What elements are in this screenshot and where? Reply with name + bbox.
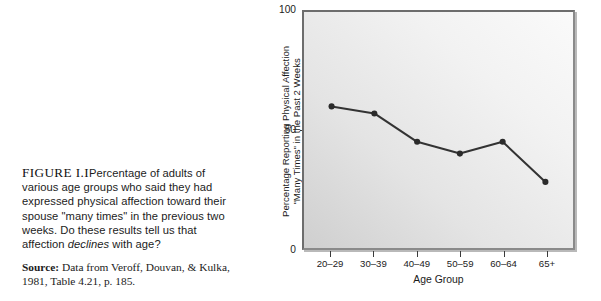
x-tick-mark — [330, 251, 331, 257]
x-tick-mark — [373, 251, 374, 257]
data-series-line — [332, 106, 546, 182]
x-tick-mark — [547, 251, 548, 257]
x-axis-title: Age Group — [302, 274, 575, 285]
data-point — [414, 139, 420, 145]
data-point — [500, 139, 506, 145]
line-chart: Percentage Reporting Physical Affection … — [236, 0, 601, 301]
y-tick-label-100: 100 — [270, 4, 296, 15]
x-tick-label: 40–49 — [403, 258, 430, 269]
figure-caption-italic-word: declines — [68, 238, 109, 250]
y-tick-label-50: 50 — [270, 124, 296, 135]
x-tick-mark — [504, 251, 505, 257]
figure-caption-body-end: with age? — [109, 238, 161, 250]
data-point — [542, 179, 548, 185]
x-tick-label: 65+ — [539, 258, 555, 269]
x-tick-mark — [460, 251, 461, 257]
figure-caption-block: FIGURE I.IPercentage of adults of variou… — [22, 166, 234, 288]
data-series-markers — [329, 103, 549, 185]
x-tick-label: 50–59 — [447, 258, 474, 269]
data-point — [371, 110, 377, 116]
figure-number-label: FIGURE I.I — [22, 165, 89, 180]
plot-area — [302, 10, 575, 250]
data-point — [457, 151, 463, 157]
data-point — [329, 103, 335, 109]
source-label: Source: — [22, 261, 59, 273]
y-axis-ticks: 100 50 0 — [268, 0, 296, 301]
x-tick-label: 60–64 — [490, 258, 517, 269]
plot-svg — [304, 12, 573, 248]
x-tick-label: 30–39 — [360, 258, 387, 269]
x-tick-label: 20–29 — [317, 258, 344, 269]
figure-caption-text: FIGURE I.IPercentage of adults of variou… — [22, 166, 234, 251]
figure-source-line: Source: Data from Veroff, Douvan, & Kulk… — [22, 261, 234, 288]
y-tick-label-0: 0 — [270, 244, 296, 255]
x-tick-mark — [417, 251, 418, 257]
